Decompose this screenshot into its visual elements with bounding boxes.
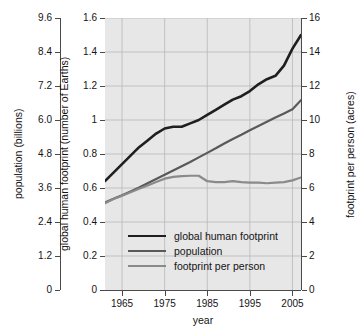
tick-mark <box>292 291 293 296</box>
legend-swatch <box>128 250 166 252</box>
axis-title-per-person: footprint per person (acres) <box>344 91 356 218</box>
legend-label: population <box>174 245 222 257</box>
tick-mark <box>302 222 307 223</box>
tick-label: 1 <box>43 115 97 125</box>
tick-label: 2 <box>309 251 315 261</box>
chart-legend: global human footprintpopulationfootprin… <box>128 228 278 273</box>
legend-item: population <box>128 243 278 258</box>
tick-label: 16 <box>309 13 320 23</box>
tick-label: 0.4 <box>43 217 97 227</box>
tick-mark <box>302 154 307 155</box>
tick-mark <box>302 120 307 121</box>
series-line <box>105 35 301 181</box>
tick-label: 6 <box>309 183 315 193</box>
tick-label: 0 <box>309 285 315 295</box>
tick-label: 1.4 <box>43 47 97 57</box>
axis-title-year: year <box>105 314 301 326</box>
tick-label: 0 <box>43 285 97 295</box>
chart-figure: population (billions) 01.22.43.64.86.07.… <box>0 0 362 335</box>
tick-label: 1.6 <box>43 13 97 23</box>
legend-swatch <box>128 235 166 237</box>
tick-label: 4 <box>309 217 315 227</box>
legend-label: footprint per person <box>174 260 265 272</box>
legend-label: global human footprint <box>174 230 278 242</box>
tick-mark <box>302 86 307 87</box>
tick-mark <box>250 291 251 296</box>
tick-mark <box>302 256 307 257</box>
tick-mark <box>302 18 307 19</box>
legend-swatch <box>128 265 166 267</box>
tick-mark <box>302 188 307 189</box>
tick-mark <box>165 291 166 296</box>
tick-mark <box>207 291 208 296</box>
legend-item: footprint per person <box>128 258 278 273</box>
legend-item: global human footprint <box>128 228 278 243</box>
tick-label: 14 <box>309 47 320 57</box>
tick-label: 2005 <box>262 298 322 309</box>
tick-label: 10 <box>309 115 320 125</box>
axis-spine-year <box>105 290 301 291</box>
tick-mark <box>302 52 307 53</box>
tick-label: 12 <box>309 81 320 91</box>
tick-mark <box>302 290 307 291</box>
tick-label: 0.6 <box>43 183 97 193</box>
tick-label: 1.2 <box>43 81 97 91</box>
tick-label: 0.8 <box>43 149 97 159</box>
tick-mark <box>122 291 123 296</box>
tick-label: 8 <box>309 149 315 159</box>
tick-label: 0.2 <box>43 251 97 261</box>
